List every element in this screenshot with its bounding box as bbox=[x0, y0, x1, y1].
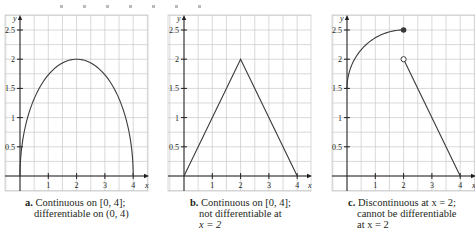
caption-line-1: Continuous on [0, 4]; bbox=[36, 197, 126, 208]
caption-c: c. Discontinuous at x = 2; cannot be dif… bbox=[348, 197, 457, 229]
x-axis-label: x bbox=[471, 181, 475, 190]
caption-b: b. Continuous on [0, 4]; not differentia… bbox=[190, 197, 291, 229]
x-tick-label: 1 bbox=[373, 181, 377, 190]
x-tick-label: 3 bbox=[430, 181, 434, 190]
chart-c-plot: 12340.511.522.5xy bbox=[0, 0, 475, 195]
y-axis-label: y bbox=[339, 14, 344, 23]
caption-line-2: cannot be differentiable bbox=[348, 208, 457, 219]
caption-label: b. bbox=[190, 197, 198, 208]
caption-line-1: Continuous on [0, 4]; bbox=[201, 197, 291, 208]
caption-line-3: at x = 2 bbox=[348, 219, 457, 229]
y-axis-arrow-icon bbox=[345, 15, 349, 20]
grid bbox=[332, 15, 475, 191]
x-tick-label: 4 bbox=[458, 181, 462, 190]
y-tick-label: 0.5 bbox=[332, 143, 342, 152]
x-tick-label: 2 bbox=[402, 181, 406, 190]
y-tick-label: 2.5 bbox=[332, 26, 342, 35]
caption-line-2: not differentiable at bbox=[190, 208, 291, 219]
open-point-icon bbox=[401, 57, 406, 62]
caption-line-3: x = 2 bbox=[190, 219, 291, 229]
caption-a: a. Continuous on [0, 4]; differentiable … bbox=[25, 197, 129, 219]
y-tick-label: 2 bbox=[338, 55, 342, 64]
y-tick-label: 1 bbox=[338, 114, 342, 123]
caption-line-2: differentiable on (0, 4) bbox=[25, 208, 129, 219]
y-tick-label: 1.5 bbox=[332, 84, 342, 93]
caption-label: c. bbox=[348, 197, 355, 208]
caption-line-1: Discontinuous at x = 2; bbox=[358, 197, 456, 208]
caption-label: a. bbox=[25, 197, 33, 208]
filled-point-icon bbox=[401, 27, 407, 33]
